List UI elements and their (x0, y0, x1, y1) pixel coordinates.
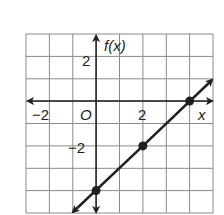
point-4-0 (185, 97, 194, 106)
coordinate-graph: f(x) x O −2 2 2 −2 (0, 0, 224, 215)
y-axis-label: f(x) (104, 37, 126, 54)
x-tick-label-neg2: −2 (32, 106, 49, 123)
point-0-neg4 (92, 186, 101, 195)
y-tick-label-neg2: −2 (68, 139, 85, 156)
origin-label: O (80, 106, 92, 123)
x-axis-label: x (197, 106, 206, 123)
point-2-neg2 (138, 141, 147, 150)
y-tick-label-2: 2 (82, 52, 90, 69)
grid (26, 34, 213, 213)
x-tick-label-2: 2 (138, 106, 146, 123)
